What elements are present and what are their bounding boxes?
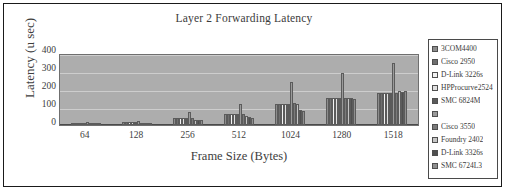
bar [149, 123, 152, 125]
y-tick-label: 200 [42, 82, 56, 90]
legend-label: D-Link 3326s [441, 148, 483, 157]
legend-swatch-icon [432, 98, 438, 104]
x-axis-ticks: 64128256512102412801518 [59, 130, 419, 140]
plot-area [59, 54, 419, 126]
legend-swatch-icon [432, 163, 438, 169]
legend-swatch-icon [432, 124, 438, 130]
legend-item[interactable]: Cisco 2950 [432, 55, 495, 68]
x-tick-label: 512 [213, 130, 264, 140]
legend-swatch-icon [432, 59, 438, 65]
x-tick-label: 1280 [316, 130, 367, 140]
bar-group [111, 55, 162, 125]
bar-group [265, 55, 316, 125]
y-tick-label: 100 [42, 100, 56, 108]
legend-item[interactable]: D-Link 3326s [432, 146, 495, 159]
chart-frame: Layer 2 Forwarding Latency Latency (u se… [3, 3, 502, 187]
bar-group [162, 55, 213, 125]
legend-item[interactable]: SMC 6824M [432, 94, 495, 107]
bar [302, 111, 305, 125]
bar-group [316, 55, 367, 125]
legend-label: SMC 6824M [441, 96, 480, 105]
y-tick-label: 300 [42, 64, 56, 72]
chart-title: Layer 2 Forwarding Latency [94, 12, 394, 24]
x-tick-label: 64 [59, 130, 110, 140]
y-tick-label: 0 [51, 118, 56, 126]
bar-group [213, 55, 264, 125]
legend-swatch-icon [432, 137, 438, 143]
bar [200, 120, 203, 125]
x-tick-label: 1024 [265, 130, 316, 140]
legend-item[interactable] [432, 107, 495, 120]
bar [353, 99, 356, 125]
legend: 3COM4400Cisco 2950D-Link 3226sHPProcurve… [428, 39, 498, 179]
legend-label: D-Link 3226s [441, 70, 483, 79]
legend-label: Cisco 3550 [441, 122, 475, 131]
x-tick-label: 128 [110, 130, 161, 140]
bar [251, 118, 254, 125]
legend-label: SMC 6724L3 [441, 161, 482, 170]
legend-item[interactable]: Cisco 3550 [432, 120, 495, 133]
legend-label: Foundry 2402 [441, 135, 483, 144]
legend-item[interactable]: SMC 6724L3 [432, 159, 495, 172]
legend-label: HPProcurve2524 [441, 83, 493, 92]
bar-groups [60, 55, 418, 125]
x-tick-label: 1518 [368, 130, 419, 140]
legend-item[interactable]: HPProcurve2524 [432, 81, 495, 94]
y-axis-ticks: 4003002001000 [30, 50, 56, 134]
legend-swatch-icon [432, 85, 438, 91]
x-tick-label: 256 [162, 130, 213, 140]
bar [404, 91, 407, 125]
y-tick-label: 400 [42, 46, 56, 54]
legend-swatch-icon [432, 150, 438, 156]
bar [98, 123, 101, 125]
legend-swatch-icon [432, 111, 438, 117]
legend-label: Cisco 2950 [441, 57, 475, 66]
legend-item[interactable]: Foundry 2402 [432, 133, 495, 146]
legend-item[interactable]: 3COM4400 [432, 42, 495, 55]
bar-group [367, 55, 418, 125]
legend-swatch-icon [432, 46, 438, 52]
x-axis-label: Frame Size (Bytes) [59, 149, 419, 164]
bar-group [60, 55, 111, 125]
legend-swatch-icon [432, 72, 438, 78]
legend-label: 3COM4400 [441, 44, 477, 53]
legend-item[interactable]: D-Link 3226s [432, 68, 495, 81]
